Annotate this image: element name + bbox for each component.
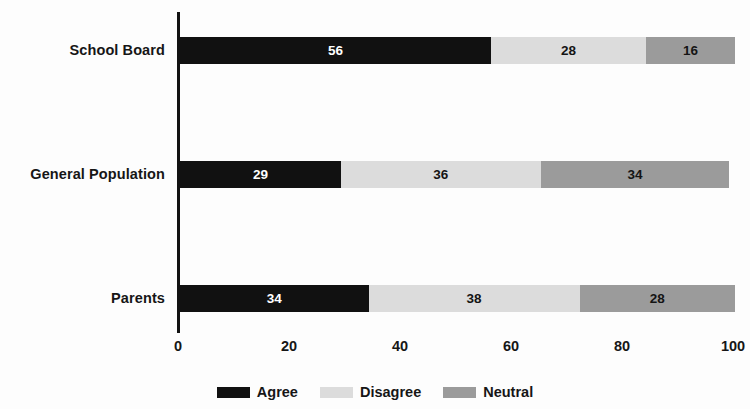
legend-item-disagree[interactable]: Disagree: [320, 385, 421, 400]
legend-label: Neutral: [483, 385, 533, 400]
legend-swatch-icon: [320, 387, 353, 398]
category-label-parents: Parents: [111, 291, 165, 306]
legend-label: Agree: [257, 385, 298, 400]
x-axis-tick-label: 60: [503, 339, 519, 354]
legend-item-agree[interactable]: Agree: [217, 385, 298, 400]
category-label-general-population: General Population: [30, 167, 165, 182]
bar-segment-neutral: 16: [646, 37, 735, 64]
bar-segment-disagree: 36: [341, 161, 541, 188]
legend-swatch-icon: [443, 387, 476, 398]
bar-segment-disagree: 28: [491, 37, 646, 64]
bar-segment-neutral: 34: [541, 161, 730, 188]
x-axis-tick-label: 40: [392, 339, 408, 354]
legend-item-neutral[interactable]: Neutral: [443, 385, 533, 400]
legend-label: Disagree: [360, 385, 421, 400]
x-axis-tick-label: 80: [614, 339, 630, 354]
bar-segment-agree: 56: [180, 37, 491, 64]
bar-row: 29 36 34: [180, 161, 729, 188]
category-label-school-board: School Board: [70, 43, 165, 58]
legend-swatch-icon: [217, 387, 250, 398]
x-axis-tick-label: 0: [174, 339, 182, 354]
plot-area: School Board General Population Parents …: [0, 0, 750, 409]
bar-segment-neutral: 28: [580, 285, 735, 312]
bar-row: 34 38 28: [180, 285, 735, 312]
bar-segment-disagree: 38: [369, 285, 580, 312]
bar-segment-agree: 29: [180, 161, 341, 188]
x-axis-tick-label: 100: [721, 339, 745, 354]
legend: Agree Disagree Neutral: [0, 385, 750, 400]
stacked-bar-chart: School Board General Population Parents …: [0, 0, 750, 409]
x-axis-tick-label: 20: [281, 339, 297, 354]
bar-segment-agree: 34: [180, 285, 369, 312]
bar-row: 56 28 16: [180, 37, 735, 64]
